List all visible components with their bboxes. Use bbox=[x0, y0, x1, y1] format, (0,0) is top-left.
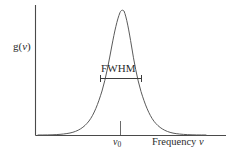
center-frequency-subscript: 0 bbox=[117, 140, 121, 149]
y-axis-label-var: ν bbox=[22, 40, 27, 52]
fwhm-label: FWHM bbox=[101, 63, 136, 74]
x-axis-label-var: ν bbox=[199, 136, 204, 147]
x-axis-label-text: Frequency bbox=[152, 136, 196, 147]
center-frequency-label: ν0 bbox=[113, 137, 121, 148]
lineshape-figure: g(ν) FWHM ν0 Frequency ν bbox=[0, 0, 232, 161]
y-axis-label-fn: g bbox=[13, 40, 19, 52]
x-axis-label: Frequency ν bbox=[152, 137, 204, 148]
y-axis-label: g(ν) bbox=[13, 41, 31, 52]
